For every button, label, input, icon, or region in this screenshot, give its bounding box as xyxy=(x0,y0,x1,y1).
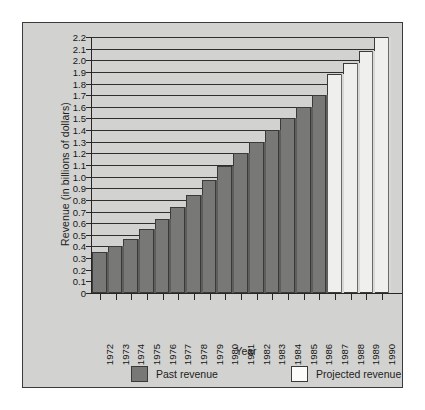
bar-side-shading xyxy=(263,142,266,293)
y-tick-mark xyxy=(86,72,91,73)
bar-1979 xyxy=(202,180,219,293)
bar-side-shading xyxy=(137,239,140,293)
bar-side-shading xyxy=(106,252,109,293)
legend-item-past: Past revenue xyxy=(131,366,218,382)
legend-label: Projected revenue xyxy=(316,368,401,380)
chart-panel: Revenue (in billions of dollars) 2.22.12… xyxy=(22,22,403,388)
bar-side-shading xyxy=(168,219,171,293)
bar-1978 xyxy=(186,195,203,293)
bar-side-shading xyxy=(184,207,187,293)
bar-side-shading xyxy=(388,37,391,293)
bar-side-shading xyxy=(372,51,375,293)
bar-1975 xyxy=(139,229,156,293)
bar-1981 xyxy=(233,153,250,293)
bar-1988 xyxy=(343,63,360,293)
bar-1980 xyxy=(217,166,234,293)
bar-side-shading xyxy=(200,195,203,293)
bar-side-shading xyxy=(357,63,360,293)
y-tick-mark xyxy=(86,60,91,61)
y-tick-mark xyxy=(86,49,91,50)
y-tick-mark xyxy=(86,200,91,201)
bar-side-shading xyxy=(153,229,156,293)
bar-1987 xyxy=(327,74,344,293)
x-axis-tick-labels: 1972197319741975197619771978197919801981… xyxy=(92,300,390,346)
y-tick-mark xyxy=(86,223,91,224)
y-tick-mark xyxy=(86,95,91,96)
legend-swatch-projected xyxy=(291,366,308,382)
bar-side-shading xyxy=(278,130,281,293)
bar-side-shading xyxy=(341,74,344,293)
bar-side-shading xyxy=(231,166,234,293)
y-tick-mark xyxy=(86,142,91,143)
y-tick-mark xyxy=(86,37,91,38)
bar-1973 xyxy=(108,246,125,293)
y-tick-mark xyxy=(86,107,91,108)
bar-1976 xyxy=(155,219,172,293)
y-tick-mark xyxy=(86,293,91,294)
bar-side-shading xyxy=(310,107,313,293)
y-tick-mark xyxy=(86,235,91,236)
y-tick-mark xyxy=(86,177,91,178)
y-tick-mark xyxy=(86,281,91,282)
bar-1972 xyxy=(92,252,109,293)
y-tick-mark xyxy=(86,270,91,271)
legend-item-projected: Projected revenue xyxy=(291,366,401,382)
bar-1986 xyxy=(312,95,329,293)
bar-side-shading xyxy=(294,118,297,293)
y-tick-mark xyxy=(86,118,91,119)
legend-swatch-past xyxy=(131,366,148,382)
y-tick-mark xyxy=(86,165,91,166)
bar-side-shading xyxy=(121,246,124,293)
bar-1977 xyxy=(170,207,187,293)
y-tick-mark xyxy=(86,188,91,189)
bar-1985 xyxy=(296,107,313,293)
y-tick-mark xyxy=(86,246,91,247)
bar-1982 xyxy=(249,142,266,293)
bar-1989 xyxy=(359,51,376,293)
bar-side-shading xyxy=(247,153,250,293)
legend-label: Past revenue xyxy=(156,368,218,380)
bar-side-shading xyxy=(215,180,218,293)
x-axis-title: Year xyxy=(91,345,401,357)
bar-1990 xyxy=(374,37,391,293)
chart-screenshot: Revenue (in billions of dollars) 2.22.12… xyxy=(0,0,425,410)
y-tick-mark xyxy=(86,130,91,131)
bar-side-shading xyxy=(325,95,328,293)
y-tick-mark xyxy=(86,212,91,213)
chart-legend: Past revenueProjected revenue xyxy=(51,366,376,388)
y-tick-mark xyxy=(86,258,91,259)
bar-group xyxy=(92,37,390,293)
y-tick-mark xyxy=(86,84,91,85)
bar-1984 xyxy=(280,118,297,293)
y-tick-mark xyxy=(86,153,91,154)
bar-1983 xyxy=(265,130,282,293)
bar-1974 xyxy=(123,239,140,293)
plot-area: 2.22.12.01.91.81.71.61.51.41.31.21.11.00… xyxy=(91,37,401,294)
